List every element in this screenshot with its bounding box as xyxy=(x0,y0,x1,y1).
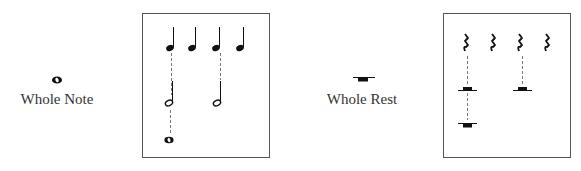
note-division-diagram xyxy=(142,13,270,158)
rest-division-diagram xyxy=(443,13,571,158)
whole-note-label: Whole Note xyxy=(2,91,112,108)
whole-rest-label: Whole Rest xyxy=(307,91,417,108)
